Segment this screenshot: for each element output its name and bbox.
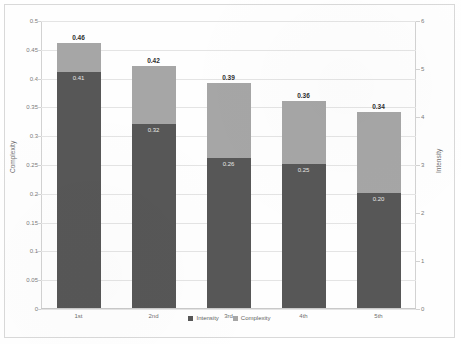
bar-segment-intensity[interactable] (57, 72, 101, 308)
chart-frame: 00.050.10.150.20.250.30.350.40.450.5 012… (4, 4, 455, 338)
right-axis-tick-label: 1 (421, 258, 451, 264)
right-axis-tickmark (416, 69, 420, 70)
bar-total-label: 0.39 (222, 74, 235, 81)
bar[interactable]: 0.320.42 (132, 66, 176, 308)
bar-segment-intensity[interactable] (357, 193, 401, 308)
left-axis-tick-label: 0.45 (8, 47, 38, 53)
bar[interactable]: 0.260.39 (207, 83, 251, 308)
bar-total-label: 0.46 (72, 34, 85, 41)
left-axis-tickmark (37, 21, 41, 22)
legend-label: Complexity (241, 315, 271, 321)
left-axis-tickmark (37, 309, 41, 310)
left-axis-tick-label: 0.5 (8, 18, 38, 24)
bar[interactable]: 0.410.46 (57, 43, 101, 308)
gridline (41, 21, 416, 22)
left-axis-tick-label: 0 (8, 306, 38, 312)
bar-total-label: 0.34 (372, 103, 385, 110)
bar-total-label: 0.42 (147, 57, 160, 64)
bar-segment-complexity[interactable] (282, 101, 326, 164)
bar-segment-intensity[interactable] (282, 164, 326, 308)
left-axis-tick-label: 0.05 (8, 277, 38, 283)
left-axis-tick-label: 0.2 (8, 191, 38, 197)
bar-total-label: 0.36 (297, 92, 310, 99)
legend-swatch-icon (233, 316, 238, 321)
left-axis-tickmark (37, 50, 41, 51)
right-axis-tick-label: 0 (421, 306, 451, 312)
gridline (41, 309, 416, 310)
bar-segment-complexity[interactable] (207, 83, 251, 158)
left-axis-tick-label: 0.4 (8, 76, 38, 82)
right-axis-tickmark (416, 165, 420, 166)
left-axis-tick-label: 0.35 (8, 104, 38, 110)
left-axis-tickmark (37, 136, 41, 137)
left-axis-tick-label: 0.3 (8, 133, 38, 139)
bar-segment-value-label: 0.32 (148, 127, 160, 133)
bar[interactable]: 0.200.34 (357, 112, 401, 308)
left-axis-title: Complexity (9, 141, 16, 173)
right-axis-tick-label: 2 (421, 210, 451, 216)
left-axis-tickmark (37, 280, 41, 281)
right-axis-title: Intensity (435, 149, 442, 173)
bar-segment-value-label: 0.20 (373, 196, 385, 202)
right-axis-tickmark (416, 213, 420, 214)
plot-area: 00.050.10.150.20.250.30.350.40.450.5 012… (41, 21, 416, 309)
left-axis-tick-label: 0.1 (8, 248, 38, 254)
bar-segment-intensity[interactable] (132, 124, 176, 308)
right-axis-tickmark (416, 261, 420, 262)
legend-item[interactable]: Complexity (233, 315, 271, 321)
left-axis-tickmark (37, 223, 41, 224)
right-axis-tick-label: 6 (421, 18, 451, 24)
left-axis-tickmark (37, 79, 41, 80)
left-axis-tickmark (37, 194, 41, 195)
legend-swatch-icon (188, 316, 193, 321)
right-axis-tick-label: 5 (421, 66, 451, 72)
right-axis-tickmark (416, 117, 420, 118)
bar-segment-value-label: 0.41 (73, 75, 85, 81)
right-axis-tickmark (416, 309, 420, 310)
left-axis-tickmark (37, 251, 41, 252)
bar[interactable]: 0.250.36 (282, 101, 326, 308)
bar-segment-complexity[interactable] (132, 66, 176, 124)
bar-segment-complexity[interactable] (57, 43, 101, 72)
left-axis-tick-label: 0.15 (8, 220, 38, 226)
chart-legend: IntensityComplexity (5, 315, 454, 321)
left-axis-tickmark (37, 107, 41, 108)
left-axis-tickmark (37, 165, 41, 166)
right-axis-tick-label: 4 (421, 114, 451, 120)
bar-segment-value-label: 0.26 (223, 161, 235, 167)
bar-segment-intensity[interactable] (207, 158, 251, 308)
right-axis-tickmark (416, 21, 420, 22)
bar-segment-complexity[interactable] (357, 112, 401, 193)
legend-label: Intensity (196, 315, 218, 321)
bar-segment-value-label: 0.25 (298, 167, 310, 173)
legend-item[interactable]: Intensity (188, 315, 218, 321)
